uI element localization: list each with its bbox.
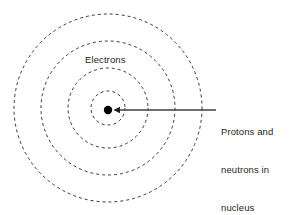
nucleus-leader-arrowhead	[114, 107, 121, 113]
nucleus-label-line-1: Protons and	[221, 126, 273, 139]
nucleus-label-line-3: nucleus	[221, 202, 273, 215]
nucleus-label: Protons and neutrons in nucleus	[221, 101, 273, 215]
nucleus-dot	[104, 106, 112, 114]
nucleus-label-line-2: neutrons in	[221, 164, 273, 177]
atom-diagram: Electrons Protons and neutrons in nucleu…	[0, 0, 289, 215]
electrons-label-line-1: Electrons	[85, 54, 126, 67]
electrons-label: Electrons	[85, 29, 126, 92]
